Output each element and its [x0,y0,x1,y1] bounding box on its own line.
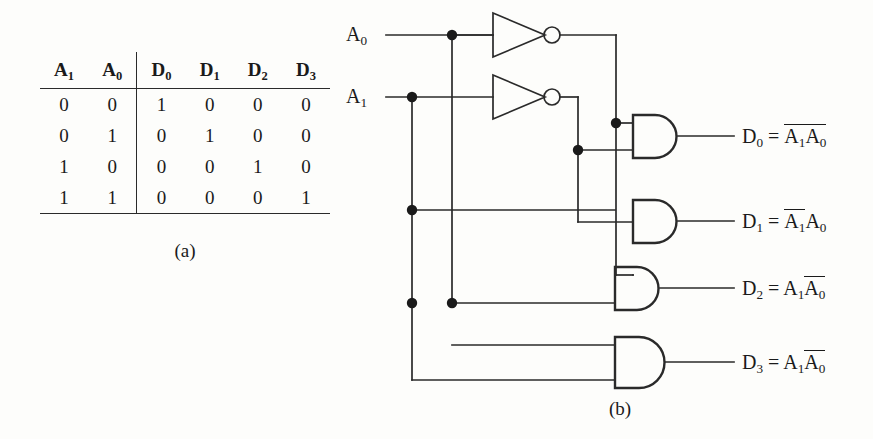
junction-dots [407,30,621,308]
junction-dot-a1-tap [407,92,417,102]
cell-d2: 0 [234,89,282,121]
output-label-d0: D0 = A1A0 [742,124,826,146]
d0-term1: A1 [784,124,805,146]
and-gate-d2 [615,267,659,310]
caption-part-b: (b) [560,398,680,420]
cell-d1: 1 [186,120,234,151]
output-label-d2: D2 = A1A0 [742,276,825,298]
and-gate-d0 [633,115,677,158]
junction-dot-a0-tap [447,30,457,40]
header-d1: D1 [186,52,234,89]
input-label-a1: A1 [346,86,367,106]
inverter-2-triangle [493,75,545,119]
cell-d0: 0 [137,151,186,182]
truth-table-header: A1 A0 D0 D1 D2 D3 [40,52,330,89]
table-row: 0 0 1 0 0 0 [40,89,330,121]
and-gate-d3 [615,337,665,388]
header-d3: D3 [282,52,330,89]
cell-d0: 0 [137,120,186,151]
cell-d0: 0 [137,182,186,214]
cell-d1: 0 [186,151,234,182]
d0-term2: A0 [805,124,826,146]
cell-d2: 0 [234,182,282,214]
cell-d2: 0 [234,120,282,151]
cell-d1: 0 [186,182,234,214]
cell-d2: 1 [234,151,282,182]
table-header-row: A1 A0 D0 D1 D2 D3 [40,52,330,89]
cell-a0: 1 [88,120,137,151]
cell-a1: 0 [40,89,88,121]
output-label-d3: D3 = A1A0 [742,350,825,372]
junction-dot-a1-d1 [407,205,417,215]
input-label-a0: A0 [346,24,367,44]
junction-dot-a0-d2 [447,298,457,308]
cell-d3: 0 [282,89,330,121]
output-label-d1: D1 = A1A0 [742,209,826,231]
d2-term2: A0 [804,276,825,298]
d1-term1: A1 [784,209,805,231]
cell-d3: 0 [282,120,330,151]
cell-a0: 0 [88,151,137,182]
table-row: 1 1 0 0 0 1 [40,182,330,214]
header-d2: D2 [234,52,282,89]
header-a1: A1 [40,52,88,89]
cell-d1: 0 [186,89,234,121]
caption-part-a: (a) [40,240,330,262]
cell-a0: 1 [88,182,137,214]
d3-term2: A0 [804,350,825,372]
cell-a1: 0 [40,120,88,151]
cell-a1: 1 [40,151,88,182]
cell-d3: 1 [282,182,330,214]
junction-dot-a1-lower [407,298,417,308]
cell-d0: 1 [137,89,186,121]
junction-dot-a1bar-d0 [573,145,583,155]
d2-term1: A1 [783,277,804,299]
and-gate-d1 [633,200,677,243]
cell-a0: 0 [88,89,137,121]
cell-d3: 0 [282,151,330,182]
circuit-panel: A0 A1 D0 = A1A0 D1 = A1A0 D2 = A1A0 D3 =… [330,0,873,439]
d1-term2: A0 [805,210,826,232]
table-row: 1 0 0 0 1 0 [40,151,330,182]
header-d0: D0 [137,52,186,89]
cell-a1: 1 [40,182,88,214]
truth-table-body: 0 0 1 0 0 0 0 1 0 1 0 0 1 0 [40,89,330,214]
junction-dot-a0bar-d0 [611,118,621,128]
inverter-1-triangle [493,13,545,57]
figure-root: A1 A0 D0 D1 D2 D3 0 0 1 0 0 0 [0,0,873,439]
truth-table: A1 A0 D0 D1 D2 D3 0 0 1 0 0 0 [40,52,330,214]
d3-term1: A1 [783,351,804,373]
table-row: 0 1 0 1 0 0 [40,120,330,151]
header-a0: A0 [88,52,137,89]
